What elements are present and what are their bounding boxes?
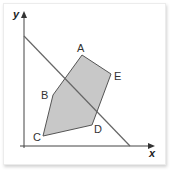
y-axis-arrow-icon xyxy=(21,11,27,18)
vertex-label-b: B xyxy=(41,89,48,101)
vertex-label-a: A xyxy=(77,42,85,54)
coordinate-diagram: y x AEDCB xyxy=(0,0,173,173)
vertex-label-e: E xyxy=(114,70,121,82)
vertex-label-c: C xyxy=(33,131,41,143)
vertex-label-d: D xyxy=(94,123,102,135)
x-axis-label: x xyxy=(148,147,156,159)
y-axis-label: y xyxy=(12,8,20,20)
